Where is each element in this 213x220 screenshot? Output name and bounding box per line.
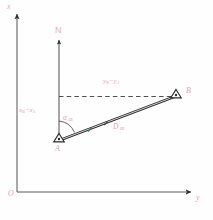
sight-line-ab-inner (60, 97, 174, 140)
point-b-marker (171, 90, 181, 98)
point-b-label: B (186, 87, 191, 95)
azimuth-arc (59, 121, 75, 132)
point-a-label: A (55, 145, 60, 153)
delta-y-label: yB−yA (103, 78, 119, 85)
delta-x-sub-a: A (33, 109, 36, 114)
azimuth-angle-label: αAB (63, 114, 73, 123)
figure-canvas: x y O N A B xB−xA yB−yA αAB DAB (0, 0, 213, 220)
delta-y-sub-a: A (117, 80, 120, 85)
origin-label: O (8, 190, 14, 198)
distance-label: DAB (113, 123, 124, 132)
north-label: N (55, 26, 62, 35)
delta-x-label: xB−xA (19, 107, 35, 114)
azimuth-sub: AB (67, 117, 73, 122)
point-a-marker (54, 134, 64, 142)
distance-sub: AB (118, 126, 124, 131)
y-axis-label: y (196, 194, 200, 202)
x-axis-label: x (7, 3, 11, 11)
